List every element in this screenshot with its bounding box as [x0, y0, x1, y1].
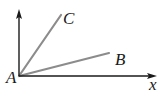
diagram-canvas	[0, 0, 161, 98]
ray-diagram: A C B x	[0, 0, 161, 98]
label-c: C	[63, 10, 74, 27]
label-a: A	[6, 69, 16, 86]
label-x-axis: x	[149, 76, 157, 93]
label-b: B	[115, 51, 125, 68]
